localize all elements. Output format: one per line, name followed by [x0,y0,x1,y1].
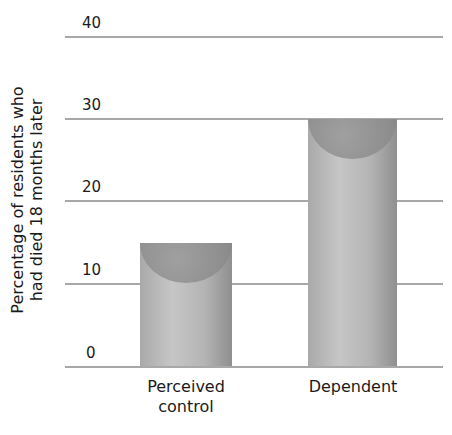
y-tick-10: 10 [82,263,101,278]
x-label-line-2: control [126,397,246,417]
bar-dependent [308,119,397,366]
y-axis-label-line-2: had died 18 months later [27,86,46,313]
y-axis-label-line-1: Percentage of residents who [8,86,27,313]
x-label-dependent: Dependent [293,377,413,397]
y-tick-0: 0 [86,346,96,361]
gridline-0-baseline [65,366,443,368]
y-tick-40: 40 [82,16,101,31]
bar-cap-shading [308,119,397,159]
x-label-line-1: Perceived [126,377,246,397]
bar-perceived-control [140,243,232,366]
y-tick-20: 20 [82,180,101,195]
x-label-line-1: Dependent [293,377,413,397]
bar-cap-shading [140,243,232,283]
bar-chart: 40 30 20 10 0 Percentage of residents wh… [0,0,452,435]
gridline-40 [65,36,443,38]
x-label-perceived-control: Perceived control [126,377,246,417]
y-tick-30: 30 [82,98,101,113]
